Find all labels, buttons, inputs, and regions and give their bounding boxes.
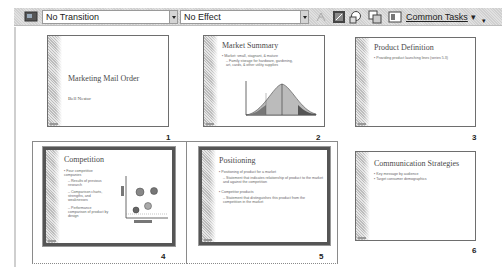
slide-footer [48, 240, 56, 242]
slide-bullet: ▪ Positioning of product for a market [219, 170, 329, 174]
slide-bullet: – Comparison charts, strengths, and weak… [68, 190, 106, 203]
slide-sorter-view: No Transition No Effect Common Tasks ▾ ▾ [0, 0, 502, 269]
slide-title: Competition [64, 155, 104, 164]
slide-3-preview[interactable]: Product Definition ▪ Providing product l… [355, 37, 476, 127]
animation-preview-icon[interactable] [314, 10, 328, 24]
slide-thumbnail-2[interactable]: Market Summary ▪ Market: small, stagnant… [198, 33, 330, 143]
slide-texture-band [204, 36, 218, 126]
slide-thumbnail-1[interactable]: Marketing Mail Order Bell Nestor 1 [45, 33, 175, 143]
slide-title: Positioning [219, 156, 255, 165]
slide-2-preview[interactable]: Market Summary ▪ Market: small, stagnant… [203, 35, 325, 127]
slide-footer [50, 123, 58, 125]
slide-texture-band [202, 150, 216, 242]
slide-texture-band [356, 152, 370, 240]
slide-number: 5 [319, 252, 323, 261]
scatter-chart [120, 174, 170, 226]
slide-title: Communication Strategies [374, 159, 459, 168]
slide-footer [206, 123, 214, 125]
slide-4-preview[interactable]: Competition ▪ Four competitive companies… [43, 147, 175, 246]
scroll-edge [14, 27, 16, 267]
slide-footer [358, 237, 366, 239]
slide-bullet: – Family storage for hardware, gardening… [226, 59, 296, 67]
slide-transition-dropdown-arrow[interactable] [169, 10, 178, 24]
common-tasks-dropdown-arrow[interactable]: ▾ [471, 10, 476, 24]
slide-thumbnail-6[interactable]: Communication Strategies ▪ Key message b… [352, 148, 482, 258]
common-tasks-menu[interactable]: Common Tasks [406, 10, 468, 24]
slide-bullet: – Statement that indicates relationship … [223, 176, 323, 184]
slide-thumbnail-5[interactable]: Positioning ▪ Positioning of product for… [186, 141, 338, 264]
summary-slide-icon[interactable] [368, 10, 382, 24]
slide-bullet: ▪ Competitor products [219, 190, 329, 194]
slide-texture-band [46, 150, 60, 243]
slide-bullet: ▪ Market: small, stagnant, & mature [222, 54, 282, 58]
slide-texture-band [48, 36, 62, 126]
slide-sorter-toolbar: No Transition No Effect Common Tasks ▾ ▾ [14, 8, 502, 26]
slide-title: Marketing Mail Order [68, 74, 139, 83]
slide-subtitle: Bell Nestor [68, 96, 91, 101]
slide-number: 4 [161, 252, 165, 261]
slide-bullet: ▪ Providing product launching lines (ser… [374, 56, 464, 60]
slide-title: Product Definition [374, 43, 434, 52]
bell-curve-chart [238, 81, 318, 121]
slide-thumbnail-3[interactable]: Product Definition ▪ Providing product l… [352, 33, 482, 143]
slide-thumbnail-4[interactable]: Competition ▪ Four competitive companies… [32, 141, 187, 264]
slide-footer [358, 123, 366, 125]
rehearse-timings-icon[interactable] [348, 10, 362, 24]
slide-footer [204, 239, 212, 241]
slide-bullet: ▪ Target consumer demographics [374, 177, 474, 181]
show-formatting-icon[interactable] [388, 10, 402, 24]
slide-bullet: – Performance comparison of product by d… [68, 206, 110, 219]
slide-title: Market Summary [222, 41, 278, 50]
preset-animation-dropdown-arrow[interactable] [300, 10, 309, 24]
slide-number: 3 [472, 133, 476, 142]
slide-1-preview[interactable]: Marketing Mail Order Bell Nestor [47, 35, 169, 127]
slide-number: 6 [472, 246, 476, 255]
preset-animation-value: No Effect [184, 12, 221, 22]
slide-texture-band [356, 38, 370, 126]
slide-5-preview[interactable]: Positioning ▪ Positioning of product for… [199, 147, 330, 245]
slide-bullet: ▪ Key message by audience [374, 172, 474, 176]
slide-show-icon[interactable] [24, 10, 38, 24]
slide-6-preview[interactable]: Communication Strategies ▪ Key message b… [355, 151, 476, 241]
preset-animation-select[interactable]: No Effect [180, 10, 300, 24]
slide-transition-value: No Transition [46, 12, 99, 22]
slide-transition-select[interactable]: No Transition [42, 10, 170, 24]
slide-bullet: ▪ Four competitive companies [64, 169, 104, 177]
toolbar-options-arrow[interactable]: ▾ [482, 14, 486, 28]
hide-slide-icon[interactable] [332, 10, 346, 24]
slide-bullet: – Results of previous research [68, 179, 106, 187]
slide-bullet: – Statement that distinguishes this prod… [223, 196, 323, 204]
